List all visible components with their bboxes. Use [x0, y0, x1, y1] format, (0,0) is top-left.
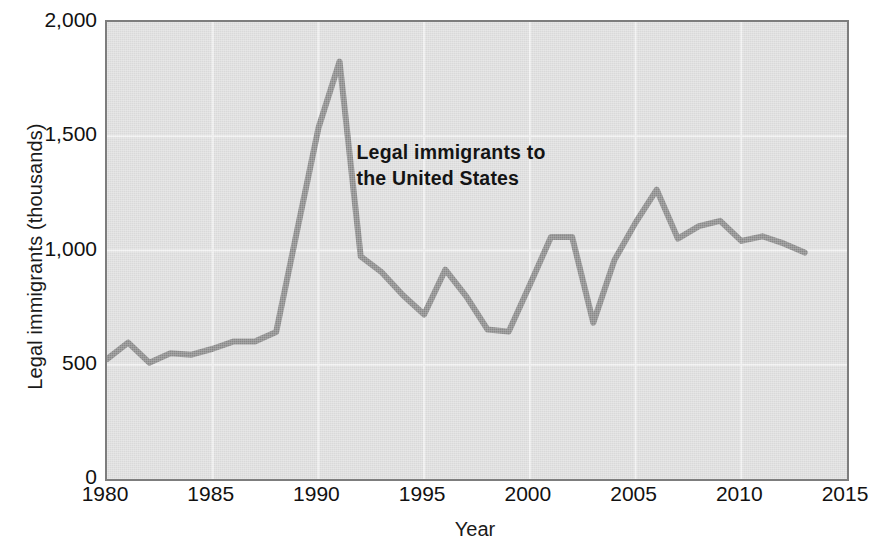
y-tick-label: 2,000 [11, 9, 97, 30]
y-axis-tick-labels: 05001,0001,5002,000 [0, 0, 97, 551]
y-tick-label: 1,000 [11, 238, 97, 259]
x-tick-label: 2000 [483, 483, 573, 504]
x-tick-label: 2010 [694, 483, 784, 504]
x-tick-label: 2015 [800, 483, 873, 504]
plot-area: Legal immigrants to the United States [105, 20, 849, 481]
series-annotation-label: Legal immigrants to the United States [356, 140, 545, 191]
plot-svg [107, 22, 847, 479]
data-series-group [107, 62, 805, 363]
x-tick-label: 1990 [271, 483, 361, 504]
x-tick-label: 1995 [377, 483, 467, 504]
y-tick-label: 1,500 [11, 123, 97, 144]
data-line [107, 62, 805, 363]
y-tick-label: 500 [11, 352, 97, 373]
x-tick-label: 1980 [60, 483, 150, 504]
x-tick-label: 2005 [589, 483, 679, 504]
x-axis-title: Year [105, 518, 845, 541]
x-tick-label: 1985 [166, 483, 256, 504]
gridlines [107, 22, 847, 479]
